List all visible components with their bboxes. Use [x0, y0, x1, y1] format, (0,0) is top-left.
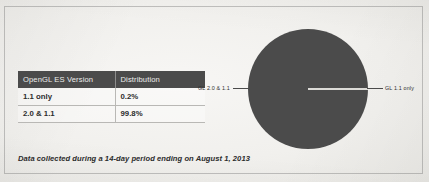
pie-slice-gl-1-1-only: [308, 88, 368, 89]
table-row: 2.0 & 1.1 99.8%: [18, 105, 205, 122]
table-header-row: OpenGL ES Version Distribution: [18, 71, 205, 88]
column-header-distribution: Distribution: [115, 71, 205, 88]
content-card: OpenGL ES Version Distribution 1.1 only …: [4, 6, 423, 174]
cell-distribution: 99.8%: [115, 105, 205, 122]
pie-circle: [248, 29, 368, 149]
pie-label-gl-1-1-only: GL 1.1 only: [385, 86, 414, 91]
cell-version: 2.0 & 1.1: [18, 105, 115, 122]
pie-chart: GL 2.0 & 1.1 GL 1.1 only: [195, 21, 427, 161]
table-body: 1.1 only 0.2% 2.0 & 1.1 99.8%: [18, 88, 205, 122]
pie-label-gl-2-0-and-1-1: GL 2.0 & 1.1: [198, 86, 230, 91]
leader-line-left: [233, 88, 249, 89]
leader-line-right: [367, 88, 383, 89]
cell-distribution: 0.2%: [115, 88, 205, 105]
column-header-version: OpenGL ES Version: [18, 71, 115, 88]
opengl-distribution-table: OpenGL ES Version Distribution 1.1 only …: [18, 71, 205, 123]
screenshot-root: OpenGL ES Version Distribution 1.1 only …: [0, 0, 429, 182]
table-header: OpenGL ES Version Distribution: [18, 71, 205, 88]
cell-version: 1.1 only: [18, 88, 115, 105]
footnote-text: Data collected during a 14-day period en…: [18, 154, 250, 163]
table-row: 1.1 only 0.2%: [18, 88, 205, 105]
